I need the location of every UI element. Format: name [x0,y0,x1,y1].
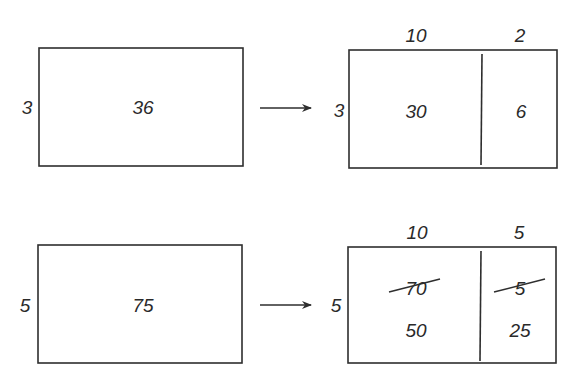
crossed-out-value-right: 5 [515,278,526,299]
original-rectangle-row-2: 5 75 [20,245,242,363]
crossed-out-value-left: 70 [405,278,427,299]
row-1: 3 36 10 2 3 30 6 [22,25,557,168]
top-label-left: 10 [405,25,427,46]
area-label: 36 [132,97,154,118]
split-rectangle-row-2: 10 5 5 70 5 50 25 [331,222,556,363]
area-label: 75 [132,295,154,316]
cell-right-value: 6 [516,101,527,122]
divider-line [480,251,481,361]
top-label-left: 10 [406,222,428,243]
area-model-diagram: 3 36 10 2 3 30 6 5 75 10 5 [0,0,577,378]
cell-left-value: 50 [405,320,427,341]
top-label-right: 2 [514,25,526,46]
divider-line [481,54,482,165]
side-label: 5 [20,295,31,316]
side-label: 3 [22,97,33,118]
cell-left-value: 30 [405,101,427,122]
row-2: 5 75 10 5 5 70 5 50 25 [20,222,556,363]
cell-right-value: 25 [508,320,531,341]
top-label-right: 5 [514,222,525,243]
split-rectangle-row-1: 10 2 3 30 6 [334,25,557,168]
side-label: 5 [331,295,342,316]
original-rectangle-row-1: 3 36 [22,48,243,166]
side-label: 3 [334,100,345,121]
